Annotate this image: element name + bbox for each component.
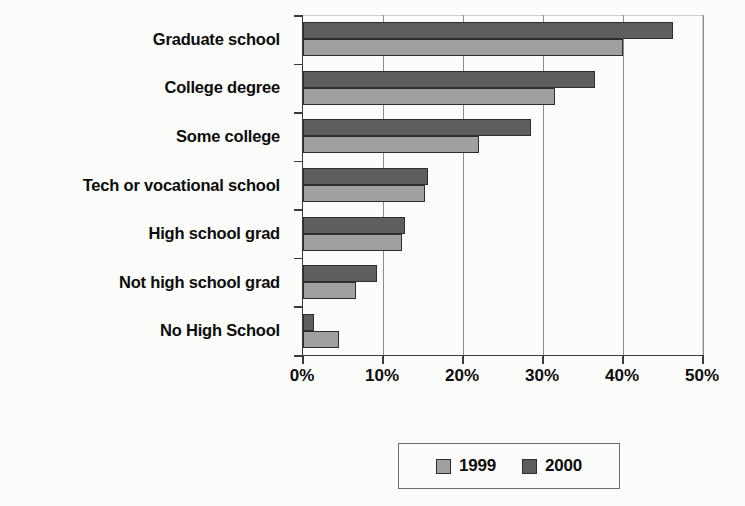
y-tick-7 [294, 355, 302, 357]
y-tick-0 [294, 15, 302, 17]
category-label: Not high school grad [10, 258, 292, 307]
bar-group [303, 306, 703, 355]
category-label: Graduate school [10, 15, 292, 64]
legend-swatch-2000 [522, 459, 537, 474]
category-label: High school grad [10, 209, 292, 258]
bar-2000 [303, 217, 405, 234]
bar-2000 [303, 168, 428, 185]
category-label: No High School [10, 306, 292, 355]
x-axis-labels: 0%10%20%30%40%50% [302, 366, 702, 392]
bar-group [303, 112, 703, 161]
bar-1999 [303, 331, 339, 348]
bar-1999 [303, 282, 356, 299]
bar-1999 [303, 185, 425, 202]
bar-2000 [303, 71, 595, 88]
x-axis-label: 40% [605, 366, 639, 386]
bar-group [303, 258, 703, 307]
x-axis-label: 10% [365, 366, 399, 386]
y-tick-4 [294, 209, 302, 211]
bars-layer [303, 15, 703, 355]
x-axis-label: 20% [445, 366, 479, 386]
gridline-50 [703, 15, 704, 355]
category-axis: Graduate schoolCollege degreeSome colleg… [10, 15, 292, 355]
bar-2000 [303, 119, 531, 136]
bar-group [303, 161, 703, 210]
category-label: Tech or vocational school [10, 161, 292, 210]
x-tick-0 [302, 355, 304, 364]
legend-label: 1999 [459, 456, 496, 476]
bar-1999 [303, 234, 402, 251]
legend-entry[interactable]: 2000 [522, 456, 582, 476]
x-tick-40 [622, 355, 624, 364]
x-tick-10 [382, 355, 384, 364]
bar-2000 [303, 314, 314, 331]
x-tick-20 [462, 355, 464, 364]
category-label: Some college [10, 112, 292, 161]
bar-2000 [303, 265, 377, 282]
plot-area [302, 15, 703, 356]
legend-entry[interactable]: 1999 [436, 456, 496, 476]
bar-group [303, 64, 703, 113]
bar-1999 [303, 136, 479, 153]
y-tick-2 [294, 112, 302, 114]
bar-2000 [303, 22, 673, 39]
y-tick-1 [294, 64, 302, 66]
bar-group [303, 209, 703, 258]
x-axis-label: 0% [290, 366, 315, 386]
x-axis-label: 30% [525, 366, 559, 386]
legend-swatch-1999 [436, 459, 451, 474]
y-tick-3 [294, 161, 302, 163]
y-tick-6 [294, 306, 302, 308]
bar-1999 [303, 88, 555, 105]
legend-label: 2000 [545, 456, 582, 476]
bar-1999 [303, 39, 623, 56]
bar-chart: Graduate schoolCollege degreeSome colleg… [0, 0, 745, 506]
x-axis-label: 50% [685, 366, 719, 386]
chart-legend: 19992000 [398, 443, 620, 489]
bar-group [303, 15, 703, 64]
y-tick-5 [294, 258, 302, 260]
x-tick-30 [542, 355, 544, 364]
x-tick-50 [702, 355, 704, 364]
category-label: College degree [10, 64, 292, 113]
